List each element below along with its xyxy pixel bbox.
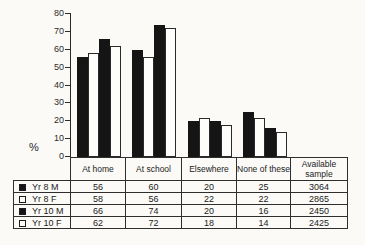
- bar-yr-10-m-at-home: [99, 39, 110, 157]
- y-axis-tick-label: 20: [24, 115, 64, 125]
- bar-yr-8-m-elsewhere: [188, 121, 199, 157]
- table-row-yr-10-m: Yr 10 M667420162450: [14, 205, 348, 217]
- series-label: Yr 8 F: [32, 194, 57, 204]
- table-value-cell: 25: [237, 181, 291, 193]
- y-axis-tick: [65, 120, 71, 121]
- y-axis-tick-label: 40: [24, 80, 64, 90]
- bar-yr-10-f-elsewhere: [221, 125, 232, 157]
- table-value-cell: 72: [126, 217, 182, 229]
- y-axis-tick: [65, 49, 71, 50]
- bar-yr-10-m-none-of-these: [265, 128, 276, 157]
- series-label: Yr 10 M: [32, 206, 64, 216]
- table-value-cell: 56: [126, 193, 182, 205]
- y-axis-tick-label: 70: [24, 26, 64, 36]
- table-value-cell: 74: [126, 205, 182, 217]
- y-axis-tick: [65, 31, 71, 32]
- y-axis-tick: [65, 67, 71, 68]
- filled-square-icon: [19, 184, 26, 191]
- y-axis-tick: [65, 138, 71, 139]
- bar-yr-8-f-at-home: [88, 53, 99, 157]
- legend-cell-yr-10-m: Yr 10 M: [14, 205, 71, 217]
- legend-cell-yr-8-m: Yr 8 M: [14, 181, 71, 193]
- table-value-cell: 22: [237, 193, 291, 205]
- table-value-cell: 16: [237, 205, 291, 217]
- table-row-yr-8-f: Yr 8 F585622222865: [14, 193, 348, 205]
- y-axis-tick-label: 10: [24, 133, 64, 143]
- bar-yr-10-m-at-school: [154, 25, 165, 157]
- table-value-cell: 2425: [291, 217, 348, 229]
- y-axis-tick-label: 80: [24, 8, 64, 18]
- y-axis-tick: [65, 85, 71, 86]
- open-square-icon: [19, 220, 26, 227]
- column-header-available-sample: Available sample: [291, 158, 348, 181]
- y-axis-tick-label: 30: [24, 97, 64, 107]
- table-row-yr-10-f: Yr 10 F627218142425: [14, 217, 348, 229]
- bar-yr-8-m-at-home: [77, 57, 88, 157]
- table-value-cell: 58: [71, 193, 126, 205]
- series-label: Yr 10 F: [32, 218, 62, 228]
- table-value-cell: 3064: [291, 181, 348, 193]
- data-table: At homeAt schoolElsewhereNone of theseAv…: [13, 157, 348, 229]
- table-value-cell: 20: [182, 205, 237, 217]
- table-value-cell: 62: [71, 217, 126, 229]
- bar-yr-8-m-at-school: [132, 50, 143, 157]
- filled-square-icon: [19, 208, 26, 215]
- y-axis-tick: [65, 13, 71, 14]
- table-value-cell: 60: [126, 181, 182, 193]
- bar-yr-10-f-at-home: [110, 46, 121, 157]
- bar-yr-10-f-at-school: [165, 28, 176, 157]
- column-header-elsewhere: Elsewhere: [182, 158, 237, 181]
- bar-chart-figure: % 01020304050607080 At homeAt schoolElse…: [0, 0, 365, 245]
- series-label: Yr 8 M: [32, 182, 59, 192]
- y-axis-tick-label: 60: [24, 44, 64, 54]
- bar-yr-8-f-elsewhere: [199, 118, 210, 157]
- legend-cell-yr-10-f: Yr 10 F: [14, 217, 71, 229]
- table-header-row: At homeAt schoolElsewhereNone of theseAv…: [14, 158, 348, 181]
- table-value-cell: 14: [237, 217, 291, 229]
- legend-cell-yr-8-f: Yr 8 F: [14, 193, 71, 205]
- table-row-yr-8-m: Yr 8 M566020253064: [14, 181, 348, 193]
- column-header-at-home: At home: [71, 158, 126, 181]
- table-corner-empty-cell: [14, 158, 71, 181]
- bar-yr-10-f-none-of-these: [276, 132, 287, 157]
- bar-yr-8-f-none-of-these: [254, 118, 265, 157]
- table-value-cell: 20: [182, 181, 237, 193]
- table-value-cell: 66: [71, 205, 126, 217]
- y-axis-tick-label: 50: [24, 62, 64, 72]
- bar-yr-10-m-elsewhere: [210, 121, 221, 157]
- plot-area: 01020304050607080: [70, 13, 348, 157]
- table-value-cell: 2450: [291, 205, 348, 217]
- column-header-none-of-these: None of these: [237, 158, 291, 181]
- open-square-icon: [19, 196, 26, 203]
- table-value-cell: 56: [71, 181, 126, 193]
- table-value-cell: 22: [182, 193, 237, 205]
- bar-yr-8-m-none-of-these: [243, 112, 254, 157]
- table-body: Yr 8 M566020253064Yr 8 F585622222865Yr 1…: [14, 181, 348, 229]
- bar-yr-8-f-at-school: [143, 57, 154, 157]
- y-axis-tick: [65, 102, 71, 103]
- table-value-cell: 2865: [291, 193, 348, 205]
- table-value-cell: 18: [182, 217, 237, 229]
- column-header-at-school: At school: [126, 158, 182, 181]
